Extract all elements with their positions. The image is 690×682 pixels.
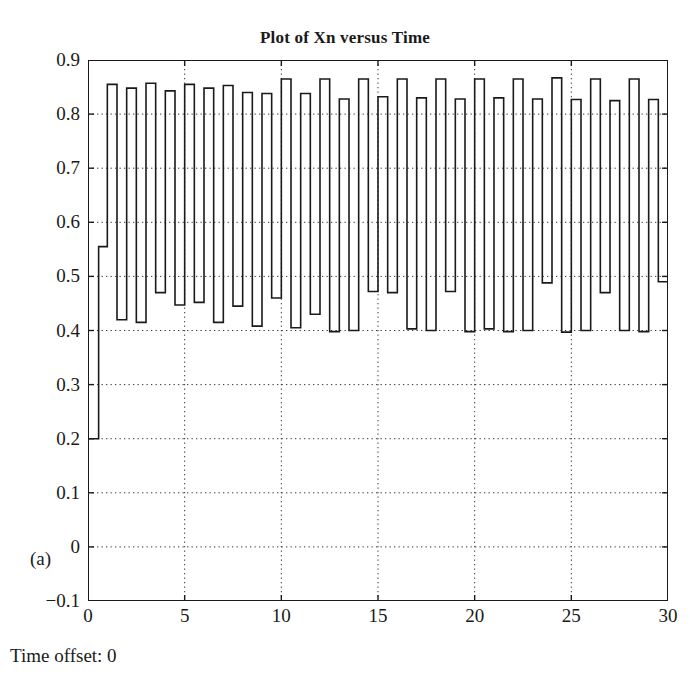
plot-canvas bbox=[88, 60, 668, 601]
x-tick-label: 10 bbox=[256, 606, 306, 625]
y-tick-label: 0.3 bbox=[22, 375, 80, 394]
panel-label: (a) bbox=[30, 548, 51, 570]
y-tick-label: 0.4 bbox=[22, 321, 80, 340]
x-tick-label: 20 bbox=[450, 606, 500, 625]
x-axis-tick-labels: 051015202530 bbox=[88, 606, 668, 636]
y-tick-label: 0.9 bbox=[22, 50, 80, 69]
x-tick-label: 15 bbox=[353, 606, 403, 625]
y-axis-tick-labels: −0.100.10.20.30.40.50.60.70.80.9 bbox=[8, 60, 80, 601]
y-tick-label: 0.8 bbox=[22, 104, 80, 123]
page-title: Plot of Xn versus Time bbox=[0, 28, 690, 48]
y-tick-label: 0.2 bbox=[22, 429, 80, 448]
x-tick-label: 30 bbox=[643, 606, 690, 625]
figure-container: Plot of Xn versus Time −0.100.10.20.30.4… bbox=[0, 0, 690, 682]
x-tick-label: 5 bbox=[160, 606, 210, 625]
x-tick-label: 25 bbox=[546, 606, 596, 625]
x-tick-label: 0 bbox=[63, 606, 113, 625]
y-tick-label: 0.6 bbox=[22, 212, 80, 231]
y-tick-label: 0.5 bbox=[22, 266, 80, 285]
y-tick-label: 0.1 bbox=[22, 483, 80, 502]
y-tick-label: 0.7 bbox=[22, 158, 80, 177]
time-offset-caption: Time offset: 0 bbox=[10, 645, 117, 667]
